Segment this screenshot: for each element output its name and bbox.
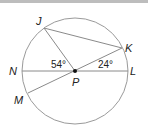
angle-jpn: 54°	[51, 59, 66, 70]
angle-kpl: 24°	[98, 59, 113, 70]
label-k: K	[125, 42, 133, 54]
circle-diagram: J K N L P M 54° 24°	[0, 0, 148, 135]
label-m: M	[14, 94, 24, 106]
label-j: J	[35, 15, 42, 27]
center-point	[73, 69, 77, 73]
label-n: N	[9, 65, 17, 77]
label-p: P	[72, 76, 80, 88]
label-l: L	[130, 65, 136, 77]
